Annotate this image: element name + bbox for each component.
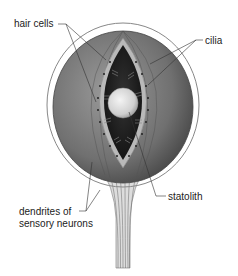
statocyst-illustration: [0, 0, 238, 276]
label-dendrites-line1: dendrites of: [19, 206, 71, 217]
label-cilia: cilia: [205, 35, 222, 46]
label-statolith: statolith: [168, 191, 202, 202]
label-hair-cells: hair cells: [14, 18, 53, 29]
nerve-stalk: [105, 175, 141, 268]
statolith: [108, 88, 138, 118]
label-dendrites-line2: sensory neurons: [19, 218, 93, 229]
